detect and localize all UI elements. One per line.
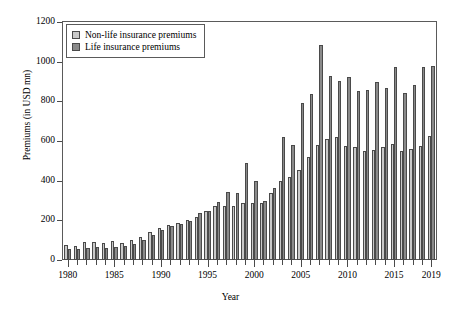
x-tick-label: 1990	[141, 270, 181, 280]
bar-life	[180, 224, 183, 260]
x-tick-mark	[133, 260, 134, 265]
bar-life	[422, 67, 425, 260]
x-tick-mark	[86, 260, 87, 265]
year-group	[380, 22, 389, 260]
x-tick-mark	[245, 260, 246, 265]
insurance-premiums-bar-chart: 020040060080010001200 Premiums (in USD m…	[0, 0, 461, 316]
x-tick-label: 1985	[94, 270, 134, 280]
x-tick-mark	[96, 260, 97, 265]
x-tick-mark	[142, 260, 143, 265]
x-tick-mark	[217, 260, 218, 265]
y-tick-label: 400	[11, 176, 55, 186]
x-tick-mark	[68, 260, 69, 267]
legend-label-life: Life insurance premiums	[85, 42, 180, 53]
bar-life	[282, 137, 285, 260]
year-group	[250, 22, 259, 260]
x-tick-mark	[385, 260, 386, 265]
y-tick-mark	[57, 101, 62, 102]
x-tick-mark	[236, 260, 237, 265]
x-tick-mark	[403, 260, 404, 265]
y-tick-label: 200	[11, 215, 55, 225]
legend-label-nonlife: Non-life insurance premiums	[85, 30, 196, 41]
x-tick-mark	[170, 260, 171, 265]
x-tick-mark	[338, 260, 339, 265]
y-axis-title: Premiums (in USD mn)	[22, 20, 32, 210]
year-group	[333, 22, 342, 260]
bar-life	[431, 66, 434, 260]
bar-life	[319, 45, 322, 260]
bar-life	[366, 90, 369, 260]
bar-life	[68, 249, 71, 261]
bar-life	[124, 246, 127, 260]
bar-life	[226, 192, 229, 260]
x-tick-mark	[105, 260, 106, 265]
x-tick-mark	[319, 260, 320, 265]
bar-life	[310, 94, 313, 260]
y-tick-label: 800	[11, 96, 55, 106]
x-tick-mark	[366, 260, 367, 265]
year-group	[305, 22, 314, 260]
x-tick-mark	[347, 260, 348, 267]
bar-life	[198, 213, 201, 260]
x-tick-mark	[180, 260, 181, 265]
bar-life	[301, 103, 304, 260]
chart-legend: Non-life insurance premiums Life insuran…	[66, 24, 205, 58]
year-group	[352, 22, 361, 260]
legend-swatch-nonlife-icon	[72, 31, 80, 39]
bar-life	[394, 67, 397, 260]
bar-life	[291, 145, 294, 260]
x-tick-label: 1980	[48, 270, 88, 280]
bar-life	[254, 181, 257, 260]
year-group	[222, 22, 231, 260]
year-group	[399, 22, 408, 260]
x-tick-label: 2000	[234, 270, 274, 280]
bar-life	[208, 211, 211, 260]
year-group	[389, 22, 398, 260]
year-group	[259, 22, 268, 260]
y-tick-mark	[57, 62, 62, 63]
x-tick-mark	[310, 260, 311, 265]
year-group	[417, 22, 426, 260]
x-tick-mark	[161, 260, 162, 267]
x-tick-mark	[282, 260, 283, 265]
bar-life	[86, 248, 89, 260]
y-tick-label: 600	[11, 136, 55, 146]
x-tick-label: 2005	[281, 270, 321, 280]
bar-life	[142, 240, 145, 260]
x-tick-label: 2010	[327, 270, 367, 280]
bar-life	[133, 244, 136, 260]
year-group	[212, 22, 221, 260]
bar-life	[161, 230, 164, 260]
legend-item-life: Life insurance premiums	[72, 41, 196, 53]
y-tick-mark	[57, 141, 62, 142]
bar-life	[77, 249, 80, 260]
bar-life	[170, 226, 173, 260]
y-tick-mark	[57, 220, 62, 221]
bar-life	[236, 193, 239, 260]
x-tick-mark	[413, 260, 414, 265]
x-tick-mark	[329, 260, 330, 265]
year-group	[408, 22, 417, 260]
x-tick-mark	[226, 260, 227, 265]
year-group	[315, 22, 324, 260]
x-tick-mark	[208, 260, 209, 267]
y-tick-label: 1000	[11, 57, 55, 67]
y-tick-mark	[57, 22, 62, 23]
bar-life	[413, 85, 416, 260]
bar-life	[189, 221, 192, 260]
x-tick-mark	[152, 260, 153, 265]
x-tick-label: 2019	[411, 270, 451, 280]
bar-life	[217, 202, 220, 260]
y-tick-mark	[57, 181, 62, 182]
x-tick-mark	[422, 260, 423, 265]
x-tick-mark	[263, 260, 264, 265]
x-tick-mark	[394, 260, 395, 267]
bar-life	[273, 188, 276, 260]
legend-swatch-life-icon	[72, 43, 80, 51]
bar-life	[263, 201, 266, 261]
bar-life	[114, 247, 117, 260]
bar-life	[403, 93, 406, 260]
year-group	[296, 22, 305, 260]
bar-life	[347, 77, 350, 260]
x-axis-title: Year	[0, 292, 461, 302]
